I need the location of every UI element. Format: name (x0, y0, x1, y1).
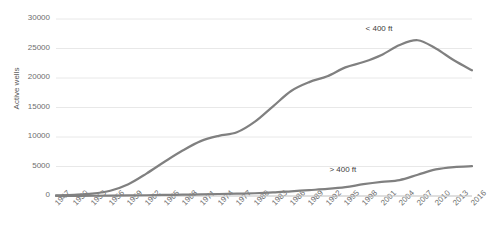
line-series-1 (56, 40, 472, 195)
gridlines (56, 19, 472, 196)
series-annotation-1: < 400 ft (366, 24, 393, 33)
series-annotation-2: > 400 ft (329, 165, 356, 174)
line-series-2 (56, 166, 472, 196)
series-lines (56, 40, 472, 196)
